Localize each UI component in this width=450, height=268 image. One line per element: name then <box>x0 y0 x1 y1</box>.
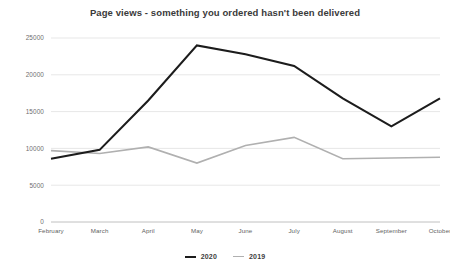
line-chart: Page views - something you ordered hasn'… <box>0 0 450 268</box>
legend-line-swatch-icon <box>185 256 196 258</box>
legend-item-2019[interactable]: 2019 <box>233 253 265 260</box>
data-series-group <box>51 45 440 163</box>
y-axis-tick-labels: 0500010000150002000025000 <box>26 34 45 225</box>
chart-legend: 20202019 <box>0 253 450 260</box>
x-axis-tick-label: February <box>38 227 64 234</box>
y-axis-tick-label: 5000 <box>29 182 44 189</box>
gridlines <box>51 38 440 222</box>
x-axis-tick-labels: FebruaryMarchAprilMayJuneJulyAugustSepte… <box>38 227 450 234</box>
y-axis-tick-label: 10000 <box>26 145 45 152</box>
y-axis-tick-label: 25000 <box>26 34 45 41</box>
y-axis-tick-label: 20000 <box>26 71 45 78</box>
x-axis-tick-label: June <box>239 227 253 234</box>
legend-line-swatch-icon <box>233 256 244 257</box>
y-axis-tick-label: 15000 <box>26 108 45 115</box>
x-axis-tick-label: May <box>191 227 204 234</box>
x-axis-tick-label: September <box>376 227 407 234</box>
x-axis-tick-label: October <box>429 227 450 234</box>
y-axis-tick-label: 0 <box>40 218 44 225</box>
x-axis-tick-label: April <box>142 227 155 234</box>
series-line-2020 <box>51 45 440 158</box>
x-axis-tick-label: July <box>288 227 300 234</box>
x-axis-tick-label: August <box>333 227 353 234</box>
legend-label: 2019 <box>249 253 265 260</box>
legend-label: 2020 <box>201 253 217 260</box>
legend-item-2020[interactable]: 2020 <box>185 253 217 260</box>
x-axis-tick-label: March <box>91 227 109 234</box>
chart-plot-area: 0500010000150002000025000 FebruaryMarchA… <box>0 0 450 268</box>
